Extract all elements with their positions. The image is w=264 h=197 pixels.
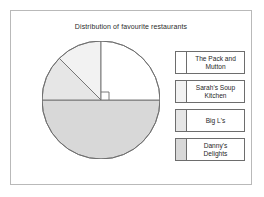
legend-swatch-icon — [176, 110, 187, 131]
page-title: Distribution of favourite restaurants — [11, 23, 251, 30]
legend-item-label: The Pack and Mutton — [187, 52, 244, 73]
legend-item[interactable]: Sarah's Soup Kitchen — [175, 80, 245, 103]
pie-chart-svg — [42, 41, 160, 159]
legend-item-label: Sarah's Soup Kitchen — [187, 81, 244, 102]
legend-item-label: Danny's Delights — [187, 139, 244, 160]
pie-slice-dannys-delights[interactable] — [42, 100, 160, 159]
legend-item[interactable]: The Pack and Mutton — [175, 51, 245, 74]
pie-chart — [42, 41, 160, 159]
legend-item-label: Big L's — [187, 110, 244, 131]
legend-swatch-icon — [176, 139, 187, 160]
legend-item[interactable]: Big L's — [175, 109, 245, 132]
legend-item[interactable]: Danny's Delights — [175, 138, 245, 161]
legend-swatch-icon — [176, 52, 187, 73]
legend-swatch-icon — [176, 81, 187, 102]
legend: The Pack and Mutton Sarah's Soup Kitchen… — [175, 51, 245, 167]
pie-slice-the-pack-and-mutton[interactable] — [101, 41, 160, 100]
chart-frame: Distribution of favourite restaurants Th… — [10, 10, 252, 185]
